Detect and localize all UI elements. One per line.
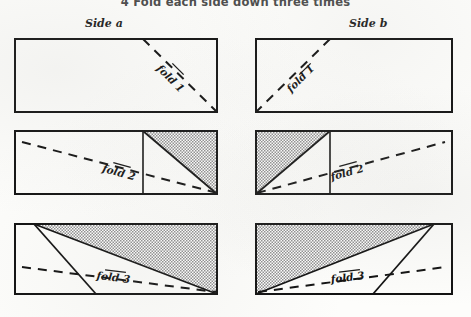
column-label-side-b: Side b <box>349 17 387 30</box>
panel-row2-side-a: fold 2 <box>15 131 217 194</box>
fold-line-dashed <box>143 39 217 112</box>
panel-row3-side-a: fold 3 <box>15 224 217 294</box>
paper-outline <box>15 39 217 112</box>
figure-title: 4 Fold each side down three times <box>0 0 471 9</box>
fold-label-row1-side-b: fold 1 <box>283 62 316 95</box>
panel-row3-side-b: fold 3 <box>256 224 452 294</box>
folding-instruction-diagram: fold 1 fold 1 fold 2 fold 2 fold 3 <box>0 0 471 317</box>
panel-row1-side-b: fold 1 <box>256 39 452 112</box>
paper-outline <box>256 39 452 112</box>
fold-label-row2-side-a: fold 2 <box>100 162 137 183</box>
column-label-side-a: Side a <box>85 17 123 30</box>
panel-row2-side-b: fold 2 <box>256 131 452 194</box>
panel-row1-side-a: fold 1 <box>15 39 217 112</box>
